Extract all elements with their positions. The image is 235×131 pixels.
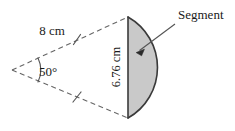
segment-diagram-figure: 8 cm 50° 6.76 cm Segment [0, 0, 235, 131]
segment-callout-label: Segment [178, 7, 224, 22]
diagram-canvas: 8 cm 50° 6.76 cm Segment [0, 0, 235, 131]
tick-mark-lower-radius [73, 92, 81, 102]
radius-label: 8 cm [39, 23, 65, 38]
segment-shaded-region [128, 17, 157, 118]
angle-label: 50° [39, 64, 57, 79]
tick-mark-upper-radius [74, 35, 81, 45]
chord-length-label: 6.76 cm [109, 47, 123, 88]
